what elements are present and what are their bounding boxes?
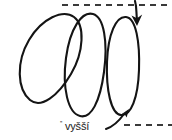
diagram-canvas: '' vyšší bbox=[0, 0, 172, 140]
loop-left bbox=[20, 14, 82, 103]
loop-right bbox=[107, 17, 139, 115]
caption-superscript-mark: '' bbox=[60, 120, 62, 127]
caption: '' vyšší bbox=[60, 119, 120, 137]
loop-middle bbox=[65, 14, 106, 117]
caption-label: vyšší bbox=[65, 121, 89, 132]
